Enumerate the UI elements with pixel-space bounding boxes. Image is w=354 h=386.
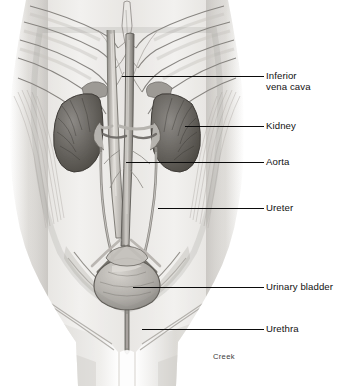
label-urethra: Urethra — [266, 323, 299, 334]
leader-line-ureter — [158, 208, 264, 209]
leader-line-urethra — [142, 329, 264, 330]
artist-signature: Creek — [213, 352, 235, 361]
label-inferior-vena-cava: Inferior vena cava — [266, 70, 311, 93]
label-ureter: Ureter — [266, 202, 293, 213]
label-aorta: Aorta — [266, 156, 289, 167]
leader-line-inferior-vena-cava — [122, 76, 264, 77]
label-kidney: Kidney — [266, 120, 296, 131]
leader-line-kidney — [185, 126, 264, 127]
label-urinary-bladder: Urinary bladder — [266, 281, 333, 292]
anatomy-figure: Inferior vena cava Kidney Aorta Ureter U… — [0, 0, 354, 386]
leader-line-urinary-bladder — [133, 287, 264, 288]
urethra — [125, 310, 129, 354]
leader-line-aorta — [126, 162, 264, 163]
